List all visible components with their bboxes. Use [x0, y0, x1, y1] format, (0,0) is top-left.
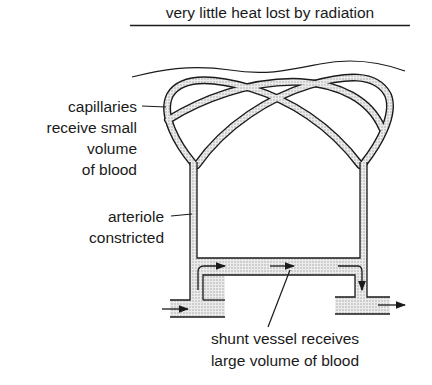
capillaries-label-line-3: volume	[0, 138, 137, 159]
shunt-label-line-1: shunt vessel receives	[190, 328, 380, 350]
shunt-leader	[268, 270, 290, 327]
arteriole-label: arteriole constricted	[0, 206, 164, 248]
shunt-label: shunt vessel receives large volume of bl…	[190, 328, 380, 372]
capillaries-leader	[142, 106, 166, 107]
arteriole-leader	[171, 214, 192, 216]
diagram-title: very little heat lost by radiation	[130, 3, 410, 23]
arteriole-label-line-2: constricted	[0, 227, 164, 248]
vessel-network	[170, 162, 390, 317]
capillary-loops	[167, 77, 390, 165]
capillaries-label-line-4: of blood	[0, 159, 137, 180]
shunt-label-line-2: large volume of blood	[190, 350, 380, 372]
arteriole-label-line-1: arteriole	[0, 206, 164, 227]
capillaries-label: capillaries receive small volume of bloo…	[0, 96, 137, 180]
capillaries-label-line-2: receive small	[0, 117, 137, 138]
capillaries-label-line-1: capillaries	[0, 96, 137, 117]
